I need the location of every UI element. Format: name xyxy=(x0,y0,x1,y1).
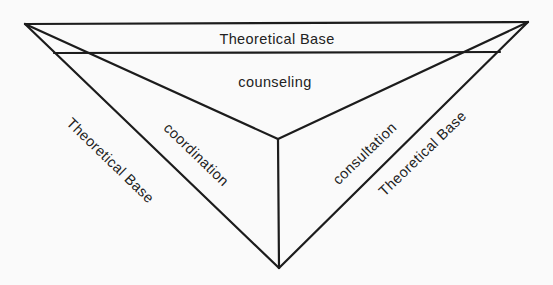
inverted-pyramid-diagram: Theoretical Base counseling coordination… xyxy=(0,0,553,285)
center-vertical-ridge xyxy=(278,139,279,268)
outer-right-edge xyxy=(279,22,528,268)
top-face-label: counseling xyxy=(238,74,311,90)
outer-left-edge xyxy=(25,24,279,268)
left-face-label: coordination xyxy=(161,120,232,190)
inner-top-edge xyxy=(54,52,500,53)
left-band-label: Theoretical Base xyxy=(63,115,157,207)
top-band-label: Theoretical Base xyxy=(219,31,334,47)
outer-top-edge xyxy=(25,22,528,24)
